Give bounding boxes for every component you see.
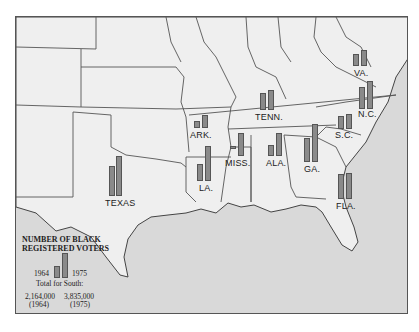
legend-title-line1: NUMBER OF BLACK bbox=[22, 235, 109, 244]
bar-tenn-1964 bbox=[260, 93, 266, 110]
bar-texas-1964 bbox=[109, 166, 115, 196]
bar-miss-1964 bbox=[230, 146, 236, 149]
bar-ark-1975 bbox=[202, 115, 208, 128]
legend-total-label: Total for South: bbox=[36, 280, 83, 288]
legend-title-line2: REGISTERED VOTERS bbox=[22, 244, 109, 253]
bar-ala-1964 bbox=[268, 145, 274, 156]
state-label-nc: N.C. bbox=[358, 109, 377, 119]
state-label-miss: MISS. bbox=[225, 158, 251, 168]
bar-tenn-1975 bbox=[268, 90, 274, 110]
bar-ark-1964 bbox=[194, 121, 200, 128]
state-label-la: LA. bbox=[199, 183, 213, 193]
bar-fla-1975 bbox=[346, 173, 352, 199]
bar-sc-1964 bbox=[338, 116, 344, 129]
legend-bar-1975 bbox=[62, 253, 68, 278]
legend-total-1975-year: (1975) bbox=[70, 301, 90, 309]
state-label-va: VA. bbox=[354, 68, 368, 78]
bar-va-1975 bbox=[361, 50, 367, 66]
legend-year-1975: 1975 bbox=[72, 270, 87, 278]
bar-ala-1975 bbox=[276, 133, 282, 156]
legend-year-1964: 1964 bbox=[34, 270, 49, 278]
bar-ga-1964 bbox=[304, 138, 310, 162]
legend-total-1964-year: (1964) bbox=[29, 301, 49, 309]
bar-ga-1975 bbox=[312, 124, 318, 162]
state-label-ala: ALA. bbox=[266, 158, 286, 168]
state-label-fla: FLA. bbox=[336, 201, 356, 211]
map-frame: TEXAS ARK. LA. MISS. TENN. ALA. GA. S.C.… bbox=[15, 16, 408, 314]
bar-nc-1975 bbox=[367, 81, 373, 109]
state-label-sc: S.C. bbox=[335, 130, 353, 140]
bar-texas-1975 bbox=[116, 156, 122, 196]
legend-bar-1964 bbox=[54, 266, 60, 278]
legend-title: NUMBER OF BLACK REGISTERED VOTERS bbox=[22, 235, 109, 253]
state-label-ark: ARK. bbox=[190, 130, 212, 140]
state-label-texas: TEXAS bbox=[105, 198, 136, 208]
bar-sc-1975 bbox=[346, 114, 352, 129]
bar-fla-1964 bbox=[338, 174, 344, 199]
bar-la-1964 bbox=[197, 164, 203, 181]
bar-la-1975 bbox=[205, 146, 211, 181]
state-label-ga: GA. bbox=[304, 164, 320, 174]
bar-miss-1975 bbox=[238, 133, 244, 156]
bar-va-1964 bbox=[353, 54, 359, 66]
state-label-tenn: TENN. bbox=[255, 112, 283, 122]
bar-nc-1964 bbox=[359, 87, 365, 109]
